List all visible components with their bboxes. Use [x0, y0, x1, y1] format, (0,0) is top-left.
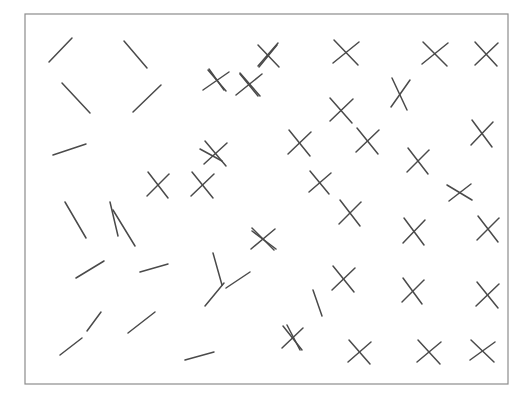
stimulus-svg — [0, 0, 530, 406]
stimulus-frame — [25, 14, 508, 384]
stimulus-canvas — [0, 0, 530, 406]
